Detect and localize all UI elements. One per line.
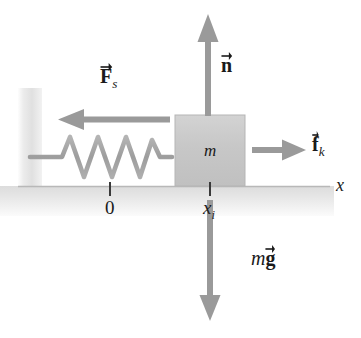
spring: [30, 137, 172, 177]
gravity-vector-symbol: g: [265, 248, 275, 268]
normal-force-label: n: [221, 55, 232, 75]
initial-position-subscript: i: [211, 208, 214, 222]
spring-force-vector-symbol: F: [100, 66, 112, 86]
physics-diagram-canvas: m F s n f: [0, 0, 361, 338]
wall: [18, 88, 42, 200]
ground-surface: [0, 186, 334, 216]
kinetic-friction-arrow: [252, 140, 306, 161]
normal-force-arrow: [198, 14, 219, 116]
kinetic-friction-vector-symbol: f: [312, 134, 319, 154]
kinetic-friction-subscript: k: [319, 144, 325, 159]
weight-mass-prefix: m: [251, 247, 265, 269]
kinetic-friction-label: f k: [312, 134, 325, 158]
x-axis-label: x: [336, 176, 344, 194]
weight-label: m g: [251, 248, 275, 268]
normal-force-vector-symbol: n: [221, 55, 232, 75]
spring-force-arrow: [58, 109, 170, 130]
spring-force-subscript: s: [112, 76, 117, 91]
initial-position-label: xi: [203, 198, 215, 221]
spring-force-label: F s: [100, 66, 117, 90]
diagram-shapes-layer: [0, 0, 361, 338]
origin-label: 0: [105, 198, 115, 217]
block-mass-label: m: [204, 142, 216, 159]
